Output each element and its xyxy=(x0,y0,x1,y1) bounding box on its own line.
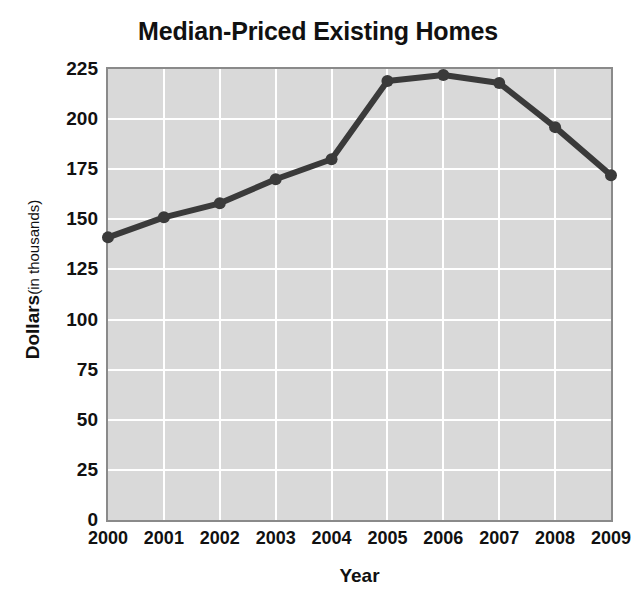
data-point-marker xyxy=(326,153,338,165)
x-axis-tick-label: 2009 xyxy=(571,528,636,548)
data-point-marker xyxy=(102,231,114,243)
y-axis-tick-label: 25 xyxy=(24,460,98,479)
y-axis-tick-label: 0 xyxy=(24,510,98,529)
data-point-marker xyxy=(605,169,617,181)
y-axis-title-units: (in thousands) xyxy=(25,200,42,295)
y-axis-tick-label: 200 xyxy=(24,109,98,128)
y-axis-title: Dollars(in thousands) xyxy=(22,165,45,395)
line-chart: Median-Priced Existing Homes 22520017515… xyxy=(0,0,636,611)
data-point-marker xyxy=(549,121,561,133)
data-point-marker xyxy=(381,75,393,87)
y-axis-title-main: Dollars xyxy=(22,295,43,359)
series-polyline xyxy=(108,75,611,237)
y-axis-tick-label: 50 xyxy=(24,410,98,429)
plot-inner xyxy=(108,69,611,520)
data-point-marker xyxy=(437,69,449,81)
data-point-marker xyxy=(214,197,226,209)
plot-area xyxy=(106,67,613,522)
x-axis-title: Year xyxy=(106,565,613,587)
y-axis-tick-label: 225 xyxy=(24,59,98,78)
data-point-marker xyxy=(493,77,505,89)
data-point-marker xyxy=(270,173,282,185)
data-point-marker xyxy=(158,211,170,223)
data-series-line xyxy=(108,69,611,520)
